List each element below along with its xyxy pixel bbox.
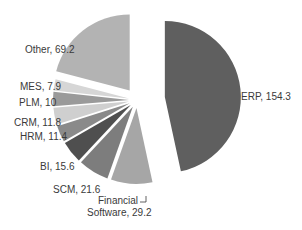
slice-label-other: Other, 69.2: [25, 44, 75, 55]
slice-label-hrm: HRM, 11.4: [20, 131, 67, 142]
slice-label-mes: MES, 7.9: [20, 81, 62, 92]
slice-label-plm: PLM, 10: [19, 97, 57, 108]
slice-label-scm: SCM, 21.6: [53, 184, 101, 195]
slice-label-financial-software-line1: Financial: [98, 195, 138, 206]
pie-slices: [53, 15, 241, 184]
slice-label-erp: ERP, 154.3: [241, 91, 291, 102]
slice-label-crm: CRM, 11.8: [14, 117, 61, 128]
slice-label-financial-software-line2: Software, 29.2: [87, 207, 152, 218]
slice-label-bi: BI, 15.6: [40, 161, 75, 172]
leader-line-financial-software: [140, 196, 146, 202]
pie-labels: ERP, 154.3 Financial Software, 29.2 SCM,…: [14, 44, 291, 218]
pie-slice-erp: [165, 21, 241, 171]
pie-chart: ERP, 154.3 Financial Software, 29.2 SCM,…: [0, 0, 302, 230]
